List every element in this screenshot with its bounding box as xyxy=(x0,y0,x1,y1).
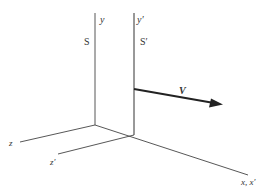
frame-S-label: S xyxy=(84,36,90,47)
x-axis-shared xyxy=(95,125,248,175)
velocity-label: V xyxy=(179,85,187,96)
z-axis-label: z xyxy=(8,138,13,148)
z-axis-S-prime xyxy=(58,135,134,154)
velocity-arrow-head-icon xyxy=(209,99,223,108)
velocity-arrow-shaft xyxy=(134,89,214,103)
y-axis-label: y xyxy=(99,14,105,25)
reference-frames-diagram: y y′ S S′ V z z′ x, x′ xyxy=(0,0,275,187)
z-prime-axis-label: z′ xyxy=(49,157,57,167)
x-axis-label: x, x′ xyxy=(240,177,256,187)
z-axis-S xyxy=(20,125,95,142)
y-prime-axis-label: y′ xyxy=(136,14,144,25)
frame-S-prime-label: S′ xyxy=(140,36,148,47)
